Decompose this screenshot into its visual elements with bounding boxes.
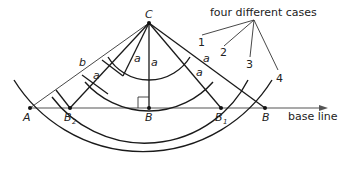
leader-case-4: [254, 20, 278, 70]
label-b1: B: [215, 111, 223, 124]
point-a: [28, 106, 32, 110]
line-c-b1: [149, 23, 221, 108]
label-b2-sub: 2: [72, 118, 77, 126]
arc-case-4: [14, 80, 272, 152]
label-c: C: [145, 8, 153, 21]
point-b: [147, 106, 151, 110]
label-b-right: B: [262, 111, 270, 124]
label-case-4: 4: [276, 72, 283, 85]
point-b-right: [263, 106, 267, 110]
point-b2: [68, 106, 72, 110]
label-a-5: a: [196, 66, 203, 79]
label-a: A: [22, 111, 31, 124]
right-angle-marker: [138, 97, 149, 108]
label-a-2: a: [134, 52, 141, 65]
annotation-four-cases: four different cases: [210, 6, 317, 19]
label-base-line: base line: [288, 110, 338, 123]
label-case-2: 2: [220, 46, 227, 59]
line-c-arc1: [123, 23, 149, 76]
label-b-segment: b: [79, 56, 86, 69]
label-case-3: 3: [246, 58, 253, 71]
label-b: B: [145, 111, 153, 124]
point-c: [147, 21, 151, 25]
label-a-4: a: [203, 52, 210, 65]
label-a-1: a: [93, 69, 100, 82]
label-b1-sub: 1: [223, 118, 227, 126]
leader-case-3: [250, 20, 254, 57]
leader-case-1: [202, 20, 254, 35]
line-c-a: [30, 23, 149, 108]
label-case-1: 1: [198, 36, 205, 49]
construction-diagram: four different cases C A B 2 B B 1 B bas…: [0, 0, 340, 177]
label-b2: B: [64, 111, 72, 124]
label-a-3: a: [151, 56, 158, 69]
point-b1: [219, 106, 223, 110]
